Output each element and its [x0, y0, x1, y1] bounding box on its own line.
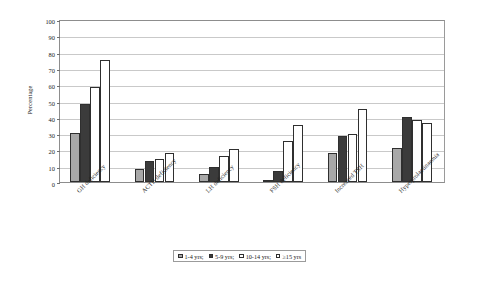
bar-group	[317, 21, 381, 182]
y-tick-label: 50	[49, 99, 55, 106]
legend-item: 5-9 yrs;	[209, 253, 235, 260]
bar	[422, 123, 432, 182]
y-tick-label: 40	[49, 115, 55, 122]
bar	[135, 169, 145, 182]
bar	[70, 133, 80, 182]
bar	[263, 180, 273, 182]
legend-label: 10-14 yrs;	[246, 253, 271, 260]
y-tick-label: 30	[49, 132, 55, 139]
chart-legend: 1-4 yrs;5-9 yrs;10-14 yrs;≥15 yrs	[173, 250, 306, 262]
legend-item: 1-4 yrs;	[178, 253, 204, 260]
bar	[293, 125, 303, 182]
legend-item: ≥15 yrs	[276, 253, 301, 260]
y-tick-label: 90	[49, 34, 55, 41]
legend-swatch-icon	[276, 254, 281, 259]
bar-group	[124, 21, 188, 182]
legend-swatch-icon	[178, 254, 183, 259]
y-tick-label: 80	[49, 50, 55, 57]
y-tick-label: 10	[49, 164, 55, 171]
legend-swatch-icon	[239, 254, 244, 259]
legend-item: 10-14 yrs;	[239, 253, 271, 260]
legend-label: 5-9 yrs;	[215, 253, 234, 260]
y-tick-label: 20	[49, 148, 55, 155]
legend-label: 1-4 yrs;	[185, 253, 204, 260]
y-axis-title: Percentage	[26, 60, 33, 140]
bar-group	[60, 21, 124, 182]
bar	[402, 117, 412, 182]
legend-swatch-icon	[209, 254, 214, 259]
bar	[199, 174, 209, 182]
y-tick-label: 100	[45, 18, 55, 25]
y-tick-label: 60	[49, 83, 55, 90]
plot-area: 0102030405060708090100	[59, 20, 445, 183]
y-tick-mark	[57, 183, 60, 184]
legend-label: ≥15 yrs	[282, 253, 301, 260]
bars-layer	[60, 21, 444, 182]
bar-group	[189, 21, 253, 182]
y-tick-label: 0	[52, 181, 55, 188]
bar	[392, 148, 402, 182]
bar	[80, 104, 90, 182]
y-tick-label: 70	[49, 66, 55, 73]
bar-chart: Percentage 0102030405060708090100 GH def…	[0, 0, 497, 281]
bar-group	[253, 21, 317, 182]
bar	[328, 153, 338, 182]
